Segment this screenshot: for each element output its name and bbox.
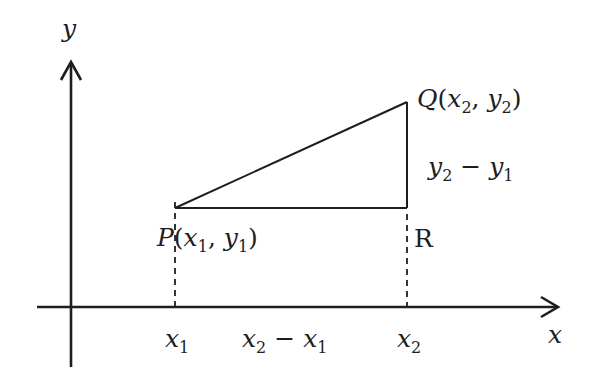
vd-a: y: [428, 152, 442, 181]
right-triangle-PQR: [175, 102, 407, 208]
vd-op: −: [452, 152, 489, 181]
point-P-name: P: [157, 223, 174, 252]
comma: ,: [472, 84, 488, 113]
point-Q-label: Q(x2, y2): [417, 86, 522, 116]
paren-open: (: [438, 84, 448, 113]
q-x-sub: 2: [461, 98, 471, 117]
hd-op: −: [266, 324, 303, 353]
point-Q-name: Q: [417, 84, 438, 113]
x2-v: x: [397, 324, 411, 353]
x1-sub: 1: [179, 338, 189, 357]
p-x: x: [184, 223, 198, 252]
hd-b-sub: 1: [317, 338, 327, 357]
q-y: y: [487, 84, 501, 113]
vertical-difference-label: y2 − y1: [428, 154, 513, 184]
point-P-label: P(x1, y1): [157, 225, 258, 255]
x-axis-label: x: [548, 322, 562, 347]
vd-b: y: [489, 152, 503, 181]
paren-close: ): [512, 84, 522, 113]
x2-sub: 2: [411, 338, 421, 357]
q-x: x: [447, 84, 461, 113]
x2-tick-label: x2: [397, 326, 421, 356]
hd-a-sub: 2: [256, 338, 266, 357]
hd-a: x: [242, 324, 256, 353]
hd-b: x: [303, 324, 317, 353]
point-R-label: R: [414, 226, 433, 251]
y-axis-label: y: [62, 16, 76, 41]
hypotenuse-PQ: [175, 102, 407, 208]
p-x-sub: 1: [198, 237, 208, 256]
vd-b-sub: 1: [503, 166, 513, 185]
vd-a-sub: 2: [442, 166, 452, 185]
p-y-sub: 1: [238, 237, 248, 256]
paren-open: (: [174, 223, 184, 252]
x-axis: [37, 297, 558, 317]
q-y-sub: 2: [502, 98, 512, 117]
comma: ,: [208, 223, 224, 252]
horizontal-difference-label: x2 − x1: [242, 326, 327, 356]
x1-tick-label: x1: [165, 326, 189, 356]
p-y: y: [224, 223, 238, 252]
y-axis: [61, 62, 81, 367]
paren-close: ): [248, 223, 258, 252]
x1-v: x: [165, 324, 179, 353]
